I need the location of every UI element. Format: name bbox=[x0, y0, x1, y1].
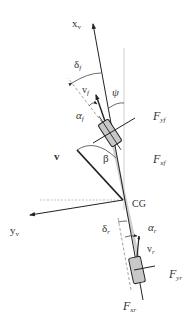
v-f-label: vf bbox=[82, 84, 90, 97]
y-axis-arrow bbox=[30, 200, 123, 215]
f-xr-label: Fxr bbox=[122, 299, 136, 314]
alpha-f-label: αf bbox=[76, 109, 85, 123]
delta-r-label: δr bbox=[102, 222, 110, 236]
v-r-label: vr bbox=[147, 243, 155, 256]
v-label: v bbox=[54, 150, 60, 162]
vehicle-dynamics-diagram: xv δf vf ψ αf Fyf Fxf v β CG yv δr αr vr… bbox=[0, 0, 192, 323]
f-xf-label: Fxf bbox=[152, 152, 166, 167]
y-axis-label: yv bbox=[10, 224, 20, 238]
delta-f-arc bbox=[72, 73, 101, 83]
x-axis-label: xv bbox=[72, 17, 82, 31]
psi-label: ψ bbox=[112, 86, 119, 98]
psi-arc bbox=[109, 103, 124, 108]
rear-wheel bbox=[128, 256, 145, 284]
alpha-r-label: αr bbox=[148, 221, 157, 235]
delta-r-arc bbox=[118, 221, 127, 222]
delta-f-label: δf bbox=[74, 58, 82, 72]
f-yr-label: Fyr bbox=[168, 267, 182, 282]
cg-label: CG bbox=[132, 198, 146, 209]
beta-label: β bbox=[103, 152, 109, 164]
f-yf-label: Fyf bbox=[152, 109, 166, 124]
rear-wheel-heading-dashed bbox=[118, 218, 131, 290]
alpha-f-arc bbox=[89, 103, 97, 106]
